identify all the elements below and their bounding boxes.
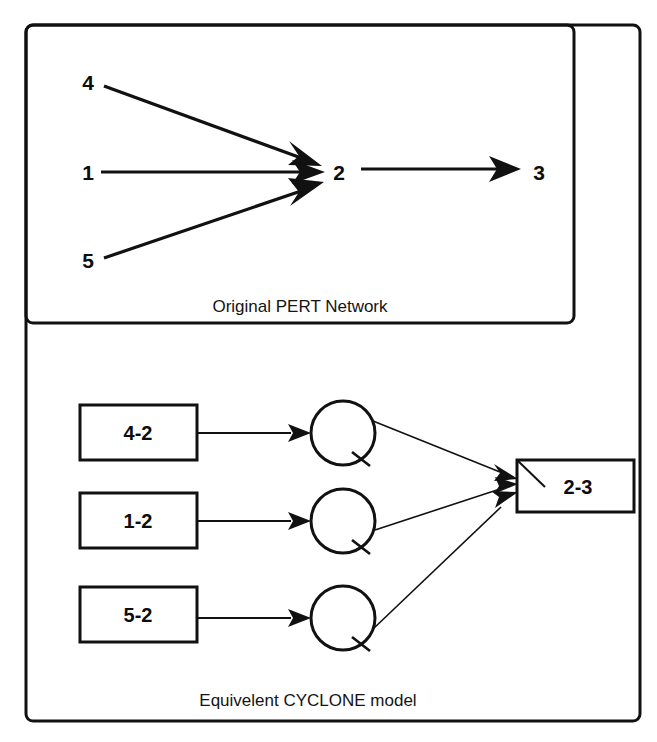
cyclone-converging-links [373, 421, 518, 629]
cyclone-queue-node-5-2-label: 5-2 [124, 604, 153, 626]
cyclone-queue-node-1-2-label: 1-2 [124, 510, 153, 532]
cyclone-normal-node-3 [311, 586, 375, 650]
cyclone-combi-node-2-3-label: 2-3 [564, 476, 593, 498]
cyclone-queue-node-4-2-label: 4-2 [124, 422, 153, 444]
panel-original-pert-network: 4 1 5 2 3 Original PERT Network [26, 25, 574, 323]
pert-node-5-label: 5 [82, 249, 94, 272]
figure-root: 4 1 5 2 3 Original PERT Network 4-2 [0, 0, 657, 742]
cyclone-link-circle-2-to-2-3 [375, 489, 500, 530]
arrowhead-icon [491, 491, 518, 508]
cyclone-panel-caption: Equivelent CYCLONE model [199, 691, 416, 710]
pert-node-2-label: 2 [333, 161, 345, 184]
arrowhead-icon [288, 424, 311, 442]
arrowhead-icon [288, 512, 311, 530]
cyclone-row-3: 5-2 [80, 586, 375, 651]
cyclone-row-2: 1-2 [80, 489, 375, 554]
pert-cyclone-figure: 4 1 5 2 3 Original PERT Network 4-2 [0, 0, 657, 742]
pert-edge-5-to-2 [104, 178, 324, 258]
panel-equivalent-cyclone-model: 4-2 1-2 5-2 [80, 401, 634, 710]
pert-node-1-label: 1 [82, 161, 94, 184]
cyclone-normal-node-1 [311, 401, 375, 465]
cyclone-link-circle-1-to-2-3 [373, 421, 500, 472]
pert-edge-4-to-2 [104, 86, 322, 166]
cyclone-row-1: 4-2 [80, 401, 375, 466]
pert-node-4-label: 4 [82, 71, 94, 94]
pert-panel-caption: Original PERT Network [212, 297, 388, 316]
pert-edge-2-to-3 [361, 156, 521, 182]
arrowhead-icon [288, 609, 311, 627]
cyclone-combi-node-2-3: 2-3 [517, 460, 634, 512]
cyclone-link-circle-3-to-2-3 [373, 507, 501, 629]
cyclone-normal-node-2 [311, 489, 375, 553]
pert-node-3-label: 3 [533, 161, 545, 184]
